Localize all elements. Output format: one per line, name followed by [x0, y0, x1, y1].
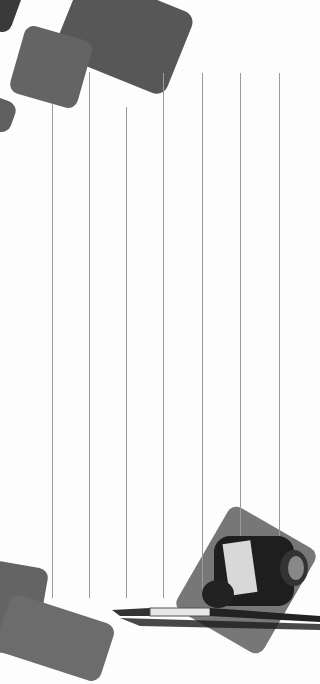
ruled-line — [240, 73, 241, 598]
ruled-line — [89, 72, 90, 598]
ruled-line — [52, 104, 53, 598]
ruled-line — [202, 73, 203, 598]
ruled-line — [163, 73, 164, 598]
decor-square-left-small — [0, 93, 18, 135]
fountain-pen-illustration — [110, 604, 320, 630]
ruled-line — [126, 107, 127, 598]
ruled-line — [279, 73, 280, 598]
fountain-pen-icon — [110, 604, 320, 630]
decor-square-bottom — [0, 592, 117, 683]
decor-square-topleft-dark — [0, 0, 25, 35]
